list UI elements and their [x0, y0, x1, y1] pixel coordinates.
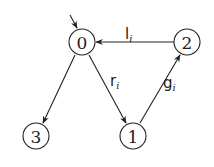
node-0: 0	[69, 29, 95, 55]
node-3-label: 3	[31, 127, 42, 147]
initial-state-arrow	[70, 15, 77, 28]
node-0-label: 0	[77, 33, 88, 53]
node-2: 2	[174, 29, 200, 55]
edge-label-l: li	[125, 25, 132, 44]
node-1: 1	[120, 123, 146, 149]
edge-0-to-3	[43, 55, 75, 123]
node-3: 3	[23, 123, 49, 149]
state-diagram: li ri gi 0 1 2 3	[0, 0, 214, 167]
edge-label-g: gi	[163, 74, 176, 93]
edge-0-to-1	[89, 55, 126, 123]
node-2-label: 2	[182, 33, 193, 53]
edge-label-r: ri	[110, 72, 119, 91]
node-1-label: 1	[128, 127, 139, 147]
